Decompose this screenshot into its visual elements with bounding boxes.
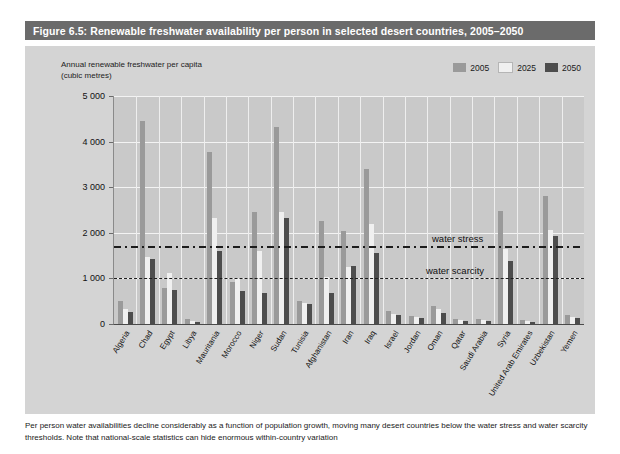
y-tick-label: 2 000 bbox=[82, 228, 105, 238]
bar-2050 bbox=[150, 259, 155, 324]
bar-group bbox=[427, 96, 449, 324]
bar-group bbox=[271, 96, 293, 324]
y-tick-label: 5 000 bbox=[82, 91, 105, 101]
bar-groups bbox=[114, 96, 584, 324]
chart-legend: 200520252050 bbox=[453, 62, 581, 73]
bar-2050 bbox=[172, 290, 177, 324]
legend-swatch-2025 bbox=[498, 62, 513, 73]
bar-2050 bbox=[217, 251, 222, 324]
bar-2050 bbox=[553, 236, 558, 324]
x-axis-label-egypt: Egypt bbox=[158, 329, 176, 351]
bar-2050 bbox=[508, 261, 513, 324]
bar-2050 bbox=[195, 322, 200, 324]
bar-group bbox=[159, 96, 181, 324]
bar-group bbox=[494, 96, 516, 324]
bar-group bbox=[383, 96, 405, 324]
bar-group bbox=[204, 96, 226, 324]
legend-swatch-2005 bbox=[453, 63, 466, 72]
x-axis-label-algeria: Algeria bbox=[111, 329, 132, 355]
y-tick-mark bbox=[109, 324, 113, 325]
bar-2050 bbox=[441, 313, 446, 324]
bar-2050 bbox=[240, 291, 245, 324]
bar-2050 bbox=[530, 322, 535, 324]
threshold-label-water-scarcity: water scarcity bbox=[426, 265, 484, 276]
plot-area: water stresswater scarcity bbox=[113, 96, 584, 325]
bar-group bbox=[315, 96, 337, 324]
y-tick-mark bbox=[109, 278, 113, 279]
y-tick-label: 0 bbox=[100, 319, 105, 329]
bar-2050 bbox=[307, 304, 312, 324]
x-axis-label-niger: Niger bbox=[248, 329, 266, 350]
y-axis-caption: Annual renewable freshwater per capita (… bbox=[61, 60, 202, 81]
bar-group bbox=[293, 96, 315, 324]
bar-group bbox=[472, 96, 494, 324]
bar-group bbox=[405, 96, 427, 324]
x-axis-label-iran: Iran bbox=[341, 329, 356, 345]
bar-group bbox=[338, 96, 360, 324]
bar-group bbox=[517, 96, 539, 324]
bar-group bbox=[562, 96, 584, 324]
figure-title-bar: Figure 6.5: Renewable freshwater availab… bbox=[25, 21, 595, 40]
legend-item-2025: 2025 bbox=[498, 62, 536, 73]
bar-group bbox=[181, 96, 203, 324]
bar-2050 bbox=[486, 321, 491, 324]
y-tick-mark bbox=[109, 142, 113, 143]
bar-group bbox=[248, 96, 270, 324]
figure-panel: Annual renewable freshwater per capita (… bbox=[25, 46, 595, 414]
y-tick-label: 4 000 bbox=[82, 137, 105, 147]
x-axis-label-yemen: Yemen bbox=[559, 329, 580, 355]
x-axis-label-chad: Chad bbox=[136, 329, 154, 350]
bar-2050 bbox=[463, 321, 468, 324]
threshold-label-water-stress: water stress bbox=[432, 233, 483, 244]
legend-item-2005: 2005 bbox=[453, 63, 489, 73]
threshold-line-water-scarcity bbox=[114, 278, 584, 279]
legend-label-2050: 2050 bbox=[562, 63, 581, 73]
bar-2050 bbox=[262, 293, 267, 324]
bar-2050 bbox=[351, 266, 356, 324]
x-axis-label-tunisia: Tunisia bbox=[290, 329, 311, 355]
x-axis-label-oman: Oman bbox=[426, 329, 445, 352]
bar-2050 bbox=[396, 315, 401, 324]
bar-group bbox=[114, 96, 136, 324]
bar-group bbox=[539, 96, 561, 324]
legend-swatch-2050 bbox=[545, 63, 558, 72]
y-tick-mark bbox=[109, 233, 113, 234]
bar-group bbox=[360, 96, 382, 324]
y-tick-label: 1 000 bbox=[82, 273, 105, 283]
bar-group bbox=[450, 96, 472, 324]
figure-screenshot: Figure 6.5: Renewable freshwater availab… bbox=[0, 0, 620, 454]
bar-2050 bbox=[575, 318, 580, 324]
x-axis-label-libya: Libya bbox=[181, 329, 199, 350]
threshold-line-water-stress bbox=[114, 246, 584, 248]
figure-title: Figure 6.5: Renewable freshwater availab… bbox=[25, 25, 523, 37]
x-axis-label-united-arab-emirates: United Arab Emirates bbox=[487, 329, 535, 398]
bar-2050 bbox=[128, 312, 133, 324]
bar-2050 bbox=[284, 218, 289, 324]
y-tick-mark bbox=[109, 187, 113, 188]
legend-item-2050: 2050 bbox=[545, 63, 581, 73]
x-axis-label-iraq: Iraq bbox=[363, 329, 378, 345]
x-axis-label-israel: Israel bbox=[382, 329, 400, 350]
bar-2050 bbox=[329, 293, 334, 324]
figure-caption: Per person water availabilities decline … bbox=[25, 420, 597, 443]
x-axis-label-morocco: Morocco bbox=[220, 329, 244, 360]
y-tick-label: 3 000 bbox=[82, 182, 105, 192]
bar-group bbox=[226, 96, 248, 324]
bar-2050 bbox=[374, 253, 379, 324]
x-axis-label-qatar: Qatar bbox=[449, 329, 467, 351]
y-tick-mark bbox=[109, 96, 113, 97]
x-axis-label-jordan: Jordan bbox=[402, 329, 423, 355]
x-axis-label-syria: Syria bbox=[495, 329, 512, 349]
bar-2050 bbox=[419, 318, 424, 324]
bar-group bbox=[136, 96, 158, 324]
x-axis-label-sudan: Sudan bbox=[269, 329, 289, 353]
legend-label-2025: 2025 bbox=[517, 63, 536, 73]
legend-label-2005: 2005 bbox=[470, 63, 489, 73]
